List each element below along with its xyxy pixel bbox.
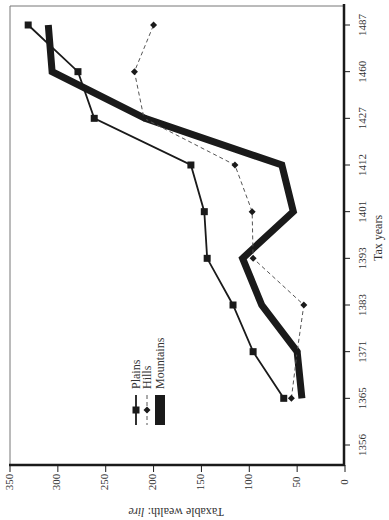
x-tick-label: 1427 <box>356 107 368 130</box>
legend-item-hills: Hills <box>140 365 154 425</box>
plains-marker <box>204 255 211 262</box>
x-tick-label: 1371 <box>356 341 368 363</box>
x-tick-label: 1401 <box>356 201 368 223</box>
y-axis-title-unit: lire <box>128 505 145 519</box>
y-axis-ticks: 050100150200250300350 <box>3 465 350 490</box>
plains-marker <box>91 115 98 122</box>
legend-label: Hills <box>140 365 154 389</box>
legend-marker <box>133 407 140 414</box>
rotated-line-chart: 1356136513711383139314011412142714601487… <box>0 0 389 520</box>
plains-marker <box>201 208 208 215</box>
y-tick-label: 250 <box>98 473 110 490</box>
y-tick-label: 100 <box>242 473 254 490</box>
hills-marker <box>288 395 295 402</box>
mountains-line <box>48 25 302 398</box>
legend-label: Mountains <box>153 337 167 389</box>
hills-marker <box>300 302 307 309</box>
hills-marker <box>150 22 157 29</box>
hills-marker <box>231 162 238 169</box>
x-tick-label: 1460 <box>356 60 368 83</box>
plains-marker <box>230 302 237 309</box>
hills-marker <box>249 208 256 215</box>
legend-item-mountains: Mountains <box>153 337 167 425</box>
legend: PlainsHillsMountains <box>129 337 167 425</box>
plains-marker <box>74 68 81 75</box>
legend-marker <box>144 407 151 414</box>
y-axis-title-text: Taxable wealth: <box>145 505 224 519</box>
plains-marker <box>25 22 32 29</box>
x-tick-label: 1365 <box>356 387 368 410</box>
x-axis-title: Tax years <box>371 215 385 261</box>
x-axis-ticks: 1356136513711383139314011412142714601487 <box>344 14 368 457</box>
x-tick-label: 1393 <box>356 247 368 270</box>
hills-marker <box>250 255 257 262</box>
x-tick-label: 1412 <box>356 154 368 176</box>
x-tick-label: 1383 <box>356 294 368 317</box>
y-tick-label: 0 <box>338 479 350 485</box>
plains-marker <box>187 162 194 169</box>
y-tick-label: 150 <box>194 473 206 490</box>
y-tick-label: 50 <box>290 476 302 488</box>
y-axis-title: Taxable wealth: lire <box>128 505 224 519</box>
plains-marker <box>280 395 287 402</box>
legend-swatch <box>155 395 165 425</box>
y-tick-label: 350 <box>3 473 15 490</box>
series-mountains <box>48 25 302 398</box>
y-tick-label: 200 <box>146 473 158 490</box>
x-tick-label: 1487 <box>356 14 368 37</box>
y-tick-label: 300 <box>50 473 62 490</box>
plains-marker <box>250 348 257 355</box>
x-tick-label: 1356 <box>356 434 368 457</box>
hills-marker <box>131 68 138 75</box>
